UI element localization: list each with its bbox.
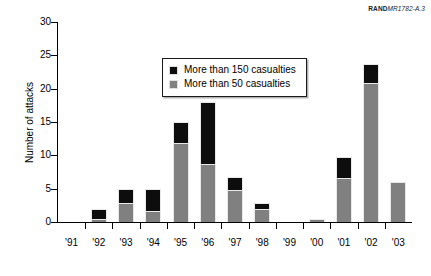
bar-stack: [336, 157, 352, 222]
legend-label-more-than-150: More than 150 casualties: [184, 65, 296, 75]
y-axis-tick-label: 5: [11, 184, 51, 194]
bar-segment-more-than-50: [363, 83, 379, 222]
x-axis-tick: [167, 222, 168, 229]
bar-segment-more-than-150: [227, 177, 243, 190]
legend-swatch-black-icon: [169, 66, 178, 75]
bar-segment-more-than-150: [118, 189, 134, 204]
y-axis-tick: [51, 189, 58, 190]
x-axis-tick-label: '03: [378, 237, 418, 248]
bar-stack: [254, 203, 270, 222]
x-axis-tick: [85, 222, 86, 229]
x-axis-tick: [303, 222, 304, 229]
chart-legend: More than 150 casualties More than 50 ca…: [162, 58, 307, 97]
bar-stack: [118, 189, 134, 222]
y-axis-tick-label: 15: [11, 117, 51, 127]
bar-stack: [145, 189, 161, 222]
bar-segment-more-than-50: [91, 219, 107, 222]
bar-segment-more-than-150: [336, 157, 352, 178]
y-axis-tick: [51, 55, 58, 56]
bar-segment-more-than-150: [200, 102, 216, 164]
x-axis-tick: [112, 222, 113, 229]
bar-segment-more-than-150: [145, 189, 161, 211]
y-axis-tick: [51, 122, 58, 123]
y-axis-tick-label: 30: [11, 17, 51, 27]
source-brand: RAND: [368, 5, 387, 12]
bar-stack: [363, 64, 379, 222]
bar-stack: [200, 102, 216, 222]
legend-item-more-than-50: More than 50 casualties: [169, 77, 296, 91]
x-axis-tick: [276, 222, 277, 229]
y-axis-tick: [51, 22, 58, 23]
bar-segment-more-than-50: [227, 190, 243, 222]
legend-label-more-than-50: More than 50 casualties: [184, 79, 290, 89]
bar-stack: [390, 182, 406, 222]
rand-source-tag: RANDMR1782-A.3: [368, 5, 425, 12]
bar-segment-more-than-50: [390, 182, 406, 222]
chart-figure: RANDMR1782-A.3 Number of attacks 0510152…: [0, 0, 431, 276]
legend-item-more-than-150: More than 150 casualties: [169, 63, 296, 77]
bar-segment-more-than-50: [118, 203, 134, 222]
x-axis-tick: [194, 222, 195, 229]
y-axis-tick-label: 25: [11, 50, 51, 60]
x-axis-tick: [221, 222, 222, 229]
bar-stack: [91, 209, 107, 222]
bar-stack: [309, 219, 325, 222]
bar-segment-more-than-150: [91, 209, 107, 219]
bar-segment-more-than-50: [309, 219, 325, 222]
y-axis-tick: [51, 155, 58, 156]
x-axis-tick: [140, 222, 141, 229]
bar-stack: [173, 122, 189, 222]
x-axis-tick: [249, 222, 250, 229]
y-axis-tick-label: 10: [11, 150, 51, 160]
y-axis-tick: [51, 89, 58, 90]
source-document-id: MR1782-A.3: [388, 5, 426, 12]
bar-segment-more-than-150: [363, 64, 379, 83]
y-axis-tick-label: 20: [11, 84, 51, 94]
x-axis-tick: [358, 222, 359, 229]
bar-segment-more-than-150: [173, 122, 189, 143]
bar-segment-more-than-50: [254, 209, 270, 222]
y-axis-tick: [51, 222, 58, 223]
legend-swatch-gray-icon: [169, 80, 178, 89]
bar-segment-more-than-50: [173, 143, 189, 222]
x-axis-tick: [385, 222, 386, 229]
plot-area: 051015202530 '91'92'93'94'95'96'97'98'99…: [57, 22, 412, 223]
bar-stack: [227, 177, 243, 222]
bar-segment-more-than-50: [200, 164, 216, 222]
y-axis-tick-label: 0: [11, 217, 51, 227]
bar-segment-more-than-50: [336, 178, 352, 222]
x-axis-tick: [330, 222, 331, 229]
bar-segment-more-than-50: [145, 211, 161, 222]
